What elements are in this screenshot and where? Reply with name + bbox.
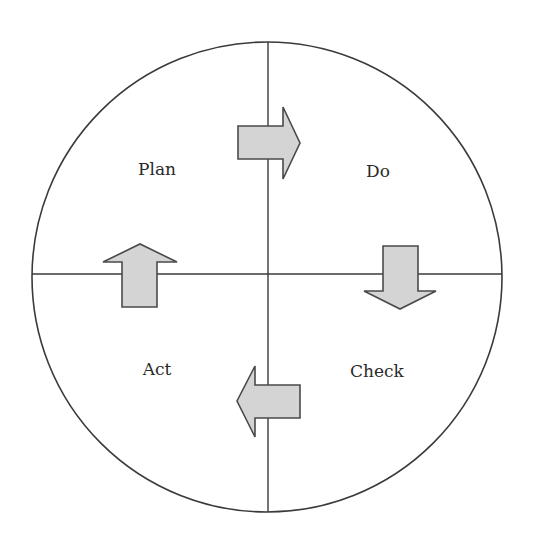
quadrant-label-do: Do bbox=[366, 161, 390, 181]
quadrant-label-check: Check bbox=[350, 361, 404, 381]
arrow-right-icon bbox=[238, 107, 300, 179]
arrow-up-icon bbox=[103, 244, 177, 307]
quadrant-label-plan: Plan bbox=[138, 159, 176, 179]
pdca-diagram bbox=[0, 0, 535, 541]
cycle-circle bbox=[32, 42, 502, 512]
arrow-down-icon bbox=[364, 246, 436, 309]
quadrant-label-act: Act bbox=[143, 359, 172, 379]
